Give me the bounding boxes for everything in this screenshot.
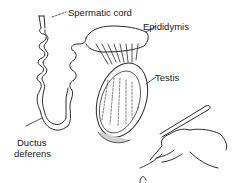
label-ductus-deferens-1: Ductus bbox=[17, 138, 47, 148]
label-testis: Testis bbox=[155, 73, 179, 83]
leader-ductus bbox=[26, 118, 42, 126]
scalpel bbox=[160, 105, 210, 137]
anatomy-diagram: Spermatic cord Epididymis Testis Ductus … bbox=[0, 0, 238, 183]
ductus-deferens bbox=[37, 28, 86, 130]
label-epididymis: Epididymis bbox=[143, 22, 189, 32]
label-spermatic-cord: Spermatic cord bbox=[68, 8, 132, 18]
fold-mark bbox=[140, 176, 146, 183]
label-ductus-deferens-2: deferens bbox=[14, 149, 51, 159]
leader-spermatic-cord bbox=[52, 12, 66, 17]
ductus-deferens-inner bbox=[42, 30, 68, 125]
epididymis bbox=[86, 26, 148, 52]
hand bbox=[150, 129, 227, 168]
cord-cut-end bbox=[39, 16, 45, 28]
